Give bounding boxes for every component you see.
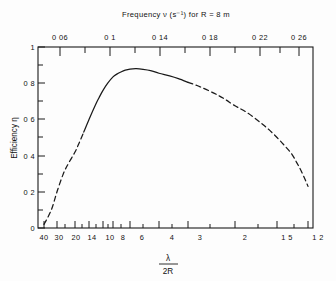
x-tick-labels: 40 30 20 14 10 8 6 4 3 2 1 5 1 2 <box>39 233 323 242</box>
x-tick-label: 1 2 <box>312 233 323 242</box>
y-tick-label: 0 2 <box>24 188 35 197</box>
curve-segment-dashed-right <box>188 82 308 186</box>
y-tick-labels: 1 0 8 0 6 0 4 0 2 0 <box>24 43 35 233</box>
top-tick-label: 0 14 <box>152 33 168 42</box>
x-tick-label: 10 <box>105 233 114 242</box>
x-tick-label: 14 <box>87 233 96 242</box>
top-tick-labels: 0 06 0 1 0 14 0 18 0 22 0 26 <box>52 33 307 42</box>
top-tick-label: 0 06 <box>52 33 68 42</box>
x-tick-label: 2 <box>243 233 248 242</box>
top-minor-ticks <box>85 47 280 53</box>
plot-border <box>38 47 313 228</box>
x-major-ticks <box>44 221 308 228</box>
x-tick-label: 20 <box>71 233 80 242</box>
curve-segment-solid <box>84 69 188 132</box>
chart-figure: Frequency ν (s⁻¹) for R = 8 m 0 06 <box>0 0 336 281</box>
top-tick-label: 0 18 <box>202 33 218 42</box>
data-curve <box>44 69 308 225</box>
y-axis: 1 0 8 0 6 0 4 0 2 0 Efficiency η <box>10 43 45 233</box>
x-axis-label-denominator: 2R <box>163 267 174 276</box>
x-axis-label: λ 2R <box>159 254 178 276</box>
y-axis-label: Efficiency η <box>10 117 19 159</box>
chart-svg: Frequency ν (s⁻¹) for R = 8 m 0 06 <box>0 0 336 281</box>
x-tick-label: 1 5 <box>281 233 292 242</box>
x-tick-label: 8 <box>121 233 126 242</box>
y-tick-label: 0 6 <box>24 115 35 124</box>
x-axis-bottom: 40 30 20 14 10 8 6 4 3 2 1 5 1 2 λ 2R <box>39 221 323 276</box>
top-axis: Frequency ν (s⁻¹) for R = 8 m 0 06 <box>52 10 307 56</box>
top-tick-label: 0 22 <box>252 33 268 42</box>
top-tick-label: 0 26 <box>291 33 307 42</box>
y-tick-label: 0 4 <box>24 152 35 161</box>
x-tick-label: 40 <box>39 233 48 242</box>
x-tick-label: 6 <box>140 233 145 242</box>
y-tick-label: 0 8 <box>24 79 35 88</box>
x-tick-label: 30 <box>54 233 63 242</box>
plot-frame <box>38 47 313 228</box>
x-minor-ticks <box>65 224 294 228</box>
x-tick-label: 3 <box>198 233 203 242</box>
top-major-ticks <box>60 47 299 56</box>
x-axis-label-numerator: λ <box>166 254 171 263</box>
y-tick-label: 1 <box>30 43 35 52</box>
top-tick-label: 0 1 <box>104 33 115 42</box>
curve-segment-dashed-left <box>44 132 84 224</box>
x-tick-label: 4 <box>170 233 175 242</box>
top-axis-title: Frequency ν (s⁻¹) for R = 8 m <box>122 10 230 19</box>
y-tick-label: 0 <box>30 224 35 233</box>
y-minor-ticks <box>38 65 43 210</box>
